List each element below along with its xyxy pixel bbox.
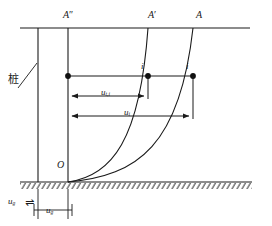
label-a-double-prime: A″ <box>63 10 73 20</box>
figure-canvas <box>0 0 272 226</box>
pile-leader-line <box>18 63 37 88</box>
label-ground-displacement-left: ug <box>8 197 15 207</box>
label-pile-cjk: 桩 <box>8 74 19 85</box>
label-dimension-u-i: ui <box>124 108 130 118</box>
deflection-curve-a <box>68 28 193 182</box>
label-a-prime: A′ <box>148 10 156 20</box>
ground-motion-arrow-icon: ⇌ <box>25 196 34 209</box>
dimension-u-t-i <box>72 76 148 99</box>
pile-deformation-figure: A″ A′ A 桩 i i ut,i ui O ug ⇌ ug <box>0 0 272 226</box>
label-node-i-mid: i <box>141 62 144 71</box>
label-dimension-u-t-i: ut,i <box>101 88 110 98</box>
label-a: A <box>196 10 202 20</box>
label-node-i-right: i <box>186 62 189 71</box>
deflection-curve-a-prime <box>68 28 148 182</box>
ground-surface-line <box>20 182 252 189</box>
dimension-u-i <box>72 76 193 119</box>
label-origin-o: O <box>57 160 64 170</box>
label-ground-displacement-dimension: ug <box>46 206 53 216</box>
